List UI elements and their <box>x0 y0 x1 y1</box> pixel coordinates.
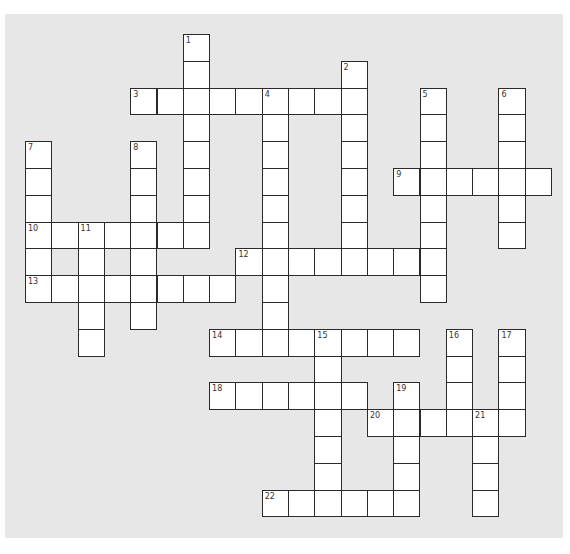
crossword-cell[interactable] <box>25 248 52 276</box>
crossword-cell[interactable] <box>341 168 368 196</box>
crossword-cell[interactable] <box>262 275 289 303</box>
crossword-cell[interactable] <box>288 329 315 357</box>
crossword-cell[interactable]: 8 <box>130 141 157 169</box>
crossword-cell[interactable] <box>235 382 262 410</box>
crossword-cell[interactable] <box>341 88 368 116</box>
crossword-cell[interactable] <box>130 275 157 303</box>
crossword-cell[interactable] <box>25 195 52 223</box>
crossword-cell[interactable] <box>262 141 289 169</box>
crossword-cell[interactable] <box>367 329 394 357</box>
crossword-cell[interactable] <box>420 248 447 276</box>
crossword-cell[interactable] <box>498 222 525 250</box>
crossword-cell[interactable] <box>341 248 368 276</box>
crossword-cell[interactable]: 21 <box>472 409 499 437</box>
crossword-cell[interactable] <box>420 141 447 169</box>
crossword-cell[interactable] <box>157 275 184 303</box>
crossword-cell[interactable] <box>446 356 473 384</box>
crossword-cell[interactable] <box>183 141 210 169</box>
crossword-cell[interactable] <box>262 114 289 142</box>
crossword-cell[interactable] <box>262 329 289 357</box>
crossword-cell[interactable] <box>498 141 525 169</box>
crossword-cell[interactable] <box>183 275 210 303</box>
crossword-cell[interactable] <box>420 275 447 303</box>
crossword-cell[interactable] <box>367 248 394 276</box>
crossword-cell[interactable] <box>446 382 473 410</box>
crossword-cell[interactable]: 19 <box>393 382 420 410</box>
crossword-cell[interactable] <box>498 114 525 142</box>
crossword-cell[interactable] <box>78 275 105 303</box>
crossword-cell[interactable] <box>498 195 525 223</box>
crossword-cell[interactable] <box>262 302 289 330</box>
crossword-cell[interactable] <box>130 222 157 250</box>
crossword-cell[interactable] <box>209 275 236 303</box>
crossword-cell[interactable]: 16 <box>446 329 473 357</box>
crossword-cell[interactable] <box>446 409 473 437</box>
crossword-cell[interactable] <box>393 490 420 518</box>
crossword-cell[interactable]: 14 <box>209 329 236 357</box>
crossword-cell[interactable] <box>183 114 210 142</box>
crossword-cell[interactable] <box>420 222 447 250</box>
crossword-cell[interactable] <box>341 222 368 250</box>
crossword-cell[interactable]: 20 <box>367 409 394 437</box>
crossword-cell[interactable] <box>183 168 210 196</box>
crossword-cell[interactable] <box>393 409 420 437</box>
crossword-cell[interactable] <box>288 248 315 276</box>
crossword-cell[interactable] <box>393 436 420 464</box>
crossword-cell[interactable] <box>104 222 131 250</box>
crossword-cell[interactable] <box>235 88 262 116</box>
crossword-cell[interactable]: 18 <box>209 382 236 410</box>
crossword-cell[interactable] <box>104 275 131 303</box>
crossword-cell[interactable]: 17 <box>498 329 525 357</box>
crossword-cell[interactable]: 13 <box>25 275 52 303</box>
crossword-cell[interactable] <box>420 409 447 437</box>
crossword-cell[interactable]: 11 <box>78 222 105 250</box>
crossword-cell[interactable]: 22 <box>262 490 289 518</box>
crossword-cell[interactable] <box>314 382 341 410</box>
crossword-cell[interactable] <box>262 195 289 223</box>
crossword-cell[interactable] <box>341 114 368 142</box>
crossword-cell[interactable] <box>51 275 78 303</box>
crossword-cell[interactable] <box>472 463 499 491</box>
crossword-cell[interactable] <box>78 329 105 357</box>
crossword-cell[interactable] <box>288 382 315 410</box>
crossword-cell[interactable]: 5 <box>420 88 447 116</box>
crossword-cell[interactable] <box>25 168 52 196</box>
crossword-cell[interactable] <box>157 88 184 116</box>
crossword-cell[interactable] <box>130 195 157 223</box>
crossword-cell[interactable] <box>498 409 525 437</box>
crossword-cell[interactable] <box>498 382 525 410</box>
crossword-cell[interactable] <box>262 168 289 196</box>
crossword-cell[interactable] <box>51 222 78 250</box>
crossword-cell[interactable]: 2 <box>341 61 368 89</box>
crossword-cell[interactable] <box>314 88 341 116</box>
crossword-cell[interactable] <box>314 409 341 437</box>
crossword-cell[interactable]: 6 <box>498 88 525 116</box>
crossword-cell[interactable] <box>314 463 341 491</box>
crossword-cell[interactable] <box>130 248 157 276</box>
crossword-cell[interactable] <box>262 248 289 276</box>
crossword-cell[interactable] <box>262 382 289 410</box>
crossword-cell[interactable] <box>288 490 315 518</box>
crossword-cell[interactable] <box>393 248 420 276</box>
crossword-cell[interactable] <box>446 168 473 196</box>
crossword-cell[interactable] <box>78 248 105 276</box>
crossword-cell[interactable]: 9 <box>393 168 420 196</box>
crossword-cell[interactable] <box>183 222 210 250</box>
crossword-cell[interactable] <box>472 490 499 518</box>
crossword-cell[interactable] <box>472 168 499 196</box>
crossword-cell[interactable] <box>341 195 368 223</box>
crossword-cell[interactable] <box>341 382 368 410</box>
crossword-cell[interactable]: 15 <box>314 329 341 357</box>
crossword-cell[interactable] <box>498 356 525 384</box>
crossword-cell[interactable] <box>314 490 341 518</box>
crossword-cell[interactable] <box>183 88 210 116</box>
crossword-cell[interactable] <box>341 329 368 357</box>
crossword-cell[interactable] <box>209 88 236 116</box>
crossword-cell[interactable]: 10 <box>25 222 52 250</box>
crossword-cell[interactable] <box>314 248 341 276</box>
crossword-cell[interactable] <box>130 168 157 196</box>
crossword-cell[interactable] <box>498 168 525 196</box>
crossword-cell[interactable]: 1 <box>183 34 210 62</box>
crossword-cell[interactable] <box>157 222 184 250</box>
crossword-cell[interactable]: 3 <box>130 88 157 116</box>
